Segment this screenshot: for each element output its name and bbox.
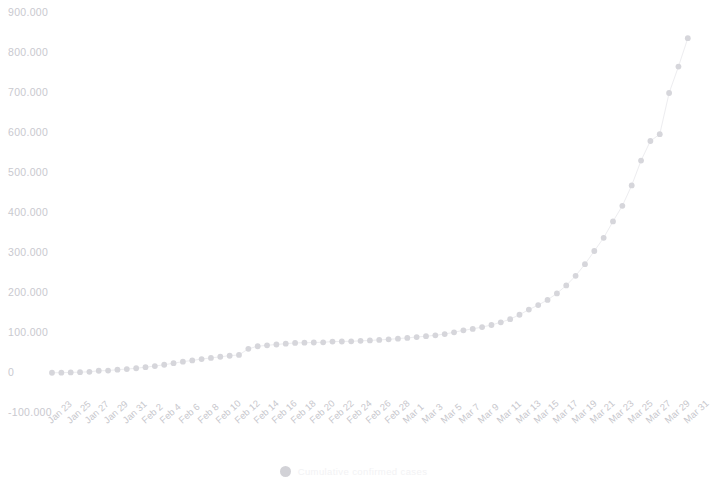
data-point <box>189 358 195 364</box>
data-point <box>498 319 504 325</box>
data-point <box>283 341 289 347</box>
data-point <box>180 359 186 365</box>
data-point <box>619 203 625 209</box>
data-point <box>657 131 663 137</box>
data-point <box>171 360 177 366</box>
data-point <box>470 326 476 332</box>
y-axis-tick-label: 0 <box>8 367 14 378</box>
data-point <box>395 336 401 342</box>
data-point <box>330 339 336 345</box>
data-point <box>143 364 149 370</box>
data-point <box>414 334 420 340</box>
data-point <box>217 354 223 360</box>
data-point <box>58 370 64 376</box>
series-connector-line <box>52 38 688 373</box>
data-point <box>545 297 551 303</box>
data-point <box>124 366 130 372</box>
data-point <box>554 291 560 297</box>
chart-legend: Cumulative confirmed cases <box>0 466 707 477</box>
y-axis-tick-label: 200.000 <box>8 287 48 298</box>
data-point <box>208 355 214 361</box>
data-point <box>404 335 410 341</box>
data-point <box>302 340 308 346</box>
data-point <box>292 340 298 346</box>
data-point <box>629 183 635 189</box>
data-point <box>255 343 261 349</box>
data-point <box>96 368 102 374</box>
data-point <box>591 248 597 254</box>
data-point <box>573 273 579 279</box>
data-point <box>666 90 672 96</box>
data-point <box>245 346 251 352</box>
data-point <box>376 337 382 343</box>
data-point <box>423 333 429 339</box>
y-axis-tick-label: 500.000 <box>8 167 48 178</box>
data-point <box>161 362 167 368</box>
data-point <box>274 342 280 348</box>
data-point <box>358 338 364 344</box>
data-point <box>105 368 111 374</box>
y-axis-tick-label: 600.000 <box>8 127 48 138</box>
data-point <box>676 64 682 70</box>
series-line <box>52 38 688 373</box>
data-point <box>451 329 457 335</box>
data-point <box>68 370 74 376</box>
data-point <box>115 367 121 373</box>
data-point <box>264 342 270 348</box>
legend-marker-icon <box>280 466 291 477</box>
data-point <box>563 283 569 289</box>
data-point <box>610 219 616 225</box>
data-point <box>133 365 139 371</box>
data-point <box>49 370 55 376</box>
data-point <box>339 339 345 345</box>
y-axis-tick-label: 300.000 <box>8 247 48 258</box>
data-point <box>311 340 317 346</box>
data-point <box>367 338 373 344</box>
data-point <box>648 138 654 144</box>
data-point <box>199 356 205 362</box>
y-axis-tick-label: 700.000 <box>8 87 48 98</box>
data-point <box>489 322 495 328</box>
data-point <box>535 302 541 308</box>
data-point <box>601 235 607 241</box>
data-point <box>638 158 644 164</box>
y-axis-tick-label: 400.000 <box>8 207 48 218</box>
data-point <box>582 261 588 267</box>
data-point <box>152 363 158 369</box>
series-data-points <box>49 35 691 375</box>
y-axis-tick-label: 800.000 <box>8 47 48 58</box>
data-point <box>227 353 233 359</box>
y-axis-tick-label: 900.000 <box>8 7 48 18</box>
data-point <box>685 35 691 41</box>
data-point <box>442 331 448 337</box>
legend-label: Cumulative confirmed cases <box>298 466 428 477</box>
data-point <box>87 369 93 375</box>
data-point <box>517 312 523 318</box>
data-point <box>348 338 354 344</box>
y-axis-tick-label: 100.000 <box>8 327 48 338</box>
data-point <box>507 316 513 322</box>
data-point <box>236 352 242 358</box>
data-point <box>461 327 467 333</box>
data-point <box>320 339 326 345</box>
data-point <box>479 324 485 330</box>
data-point <box>77 369 83 375</box>
data-point <box>526 307 532 313</box>
data-point <box>432 332 438 338</box>
data-point <box>386 336 392 342</box>
